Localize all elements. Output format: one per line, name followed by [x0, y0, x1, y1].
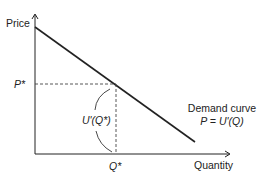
diagram-canvas: [0, 0, 258, 182]
x-axis-label: Quantity: [194, 159, 233, 171]
area-arc-lower: [96, 131, 112, 152]
p-star-label: P*: [14, 78, 25, 90]
area-arc: [95, 89, 110, 110]
curve-label-line2: P = U'(Q): [186, 115, 258, 127]
y-axis-label: Price: [6, 17, 30, 29]
area-label: U'(Q*): [82, 114, 111, 126]
q-star-label: Q*: [109, 160, 121, 172]
curve-label-line1: Demand curve: [186, 102, 258, 114]
demand-curve-line: [35, 27, 195, 142]
